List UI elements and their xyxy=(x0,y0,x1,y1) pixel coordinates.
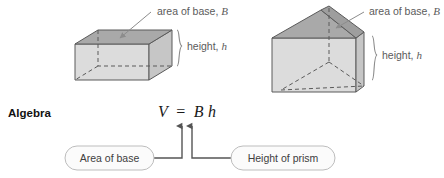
rect-prism-height-brace xyxy=(177,30,182,66)
prism-volume-figure: area of base, B height, h area of base, … xyxy=(0,0,444,178)
rect-prism-front-face xyxy=(75,44,149,80)
callout-area-of-base-label: Area of base xyxy=(80,152,140,164)
connector-area-of-base xyxy=(153,126,182,158)
figure-canvas: area of base, B height, h area of base, … xyxy=(0,0,444,178)
rect-prism-height-label: height, h xyxy=(187,40,227,52)
tri-prism-height-label: height, h xyxy=(382,49,422,61)
callout-height-of-prism[interactable]: Height of prism xyxy=(231,146,335,170)
volume-formula: V = B h xyxy=(158,103,216,120)
connector-height-of-prism xyxy=(192,126,232,158)
rect-prism-base-label: area of base, B xyxy=(157,5,228,17)
tri-prism-front-face xyxy=(272,38,356,92)
callout-height-of-prism-label: Height of prism xyxy=(248,152,319,164)
algebra-row-label: Algebra xyxy=(8,107,51,119)
rectangular-prism-group xyxy=(75,12,182,80)
callout-area-of-base[interactable]: Area of base xyxy=(65,146,154,170)
tri-prism-height-brace xyxy=(372,36,377,80)
formula-text: V = B h xyxy=(158,103,216,120)
tri-prism-base-label: area of base, B xyxy=(369,5,440,17)
triangular-prism-group xyxy=(272,6,377,92)
